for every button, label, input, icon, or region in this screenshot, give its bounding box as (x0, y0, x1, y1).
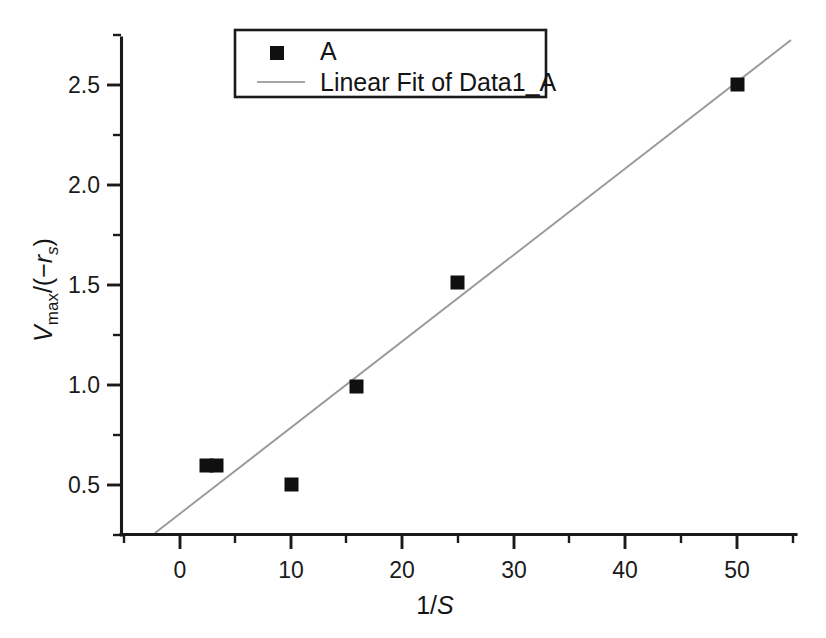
legend[interactable]: A Linear Fit of Data1_A (235, 30, 557, 97)
linear-fit-line (155, 40, 791, 533)
x-axis-title-num: 1/ (416, 591, 437, 619)
y-axis-title-max: max (43, 293, 62, 326)
x-tick-label-20: 20 (389, 557, 415, 583)
x-axis: 0 10 20 30 40 50 (121, 535, 796, 584)
y-tick-label-0.5: 0.5 (68, 472, 100, 498)
data-point (350, 380, 363, 393)
x-tick-label-40: 40 (612, 557, 638, 583)
y-axis-title-group: Vmax/(−rs) (29, 238, 62, 342)
y-axis: 2.5 2.0 1.5 1.0 0.5 (68, 35, 121, 535)
y-axis-title: Vmax/(−rs) (29, 238, 62, 342)
y-tick-label-2.0: 2.0 (68, 172, 100, 198)
chart-figure: 2.5 2.0 1.5 1.0 0.5 0 10 (0, 0, 826, 638)
y-tick-label-2.5: 2.5 (68, 72, 100, 98)
scatter-plot: 2.5 2.0 1.5 1.0 0.5 0 10 (0, 0, 826, 638)
x-axis-title-group: 1/S (416, 591, 454, 619)
data-point (731, 78, 744, 91)
data-point (285, 478, 298, 491)
legend-label-a: A (320, 37, 337, 65)
data-point (451, 276, 464, 289)
x-axis-title-var: S (437, 591, 454, 619)
x-tick-label-10: 10 (278, 557, 304, 583)
x-tick-label-0: 0 (174, 557, 187, 583)
linear-fit-line-group (155, 40, 791, 533)
x-tick-label-50: 50 (724, 557, 750, 583)
data-point (210, 459, 223, 472)
x-tick-label-30: 30 (501, 557, 527, 583)
legend-marker-square-icon (270, 46, 284, 60)
y-tick-label-1.0: 1.0 (68, 372, 100, 398)
y-tick-label-1.5: 1.5 (68, 272, 100, 298)
x-axis-title: 1/S (416, 591, 454, 619)
legend-label-fit: Linear Fit of Data1_A (320, 68, 557, 96)
